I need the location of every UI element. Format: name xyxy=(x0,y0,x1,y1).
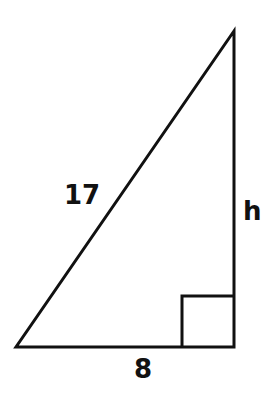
right-triangle-figure xyxy=(0,0,272,410)
hypotenuse-label: 17 xyxy=(64,182,100,208)
base-label: 8 xyxy=(134,356,152,382)
triangle-outline xyxy=(16,31,234,347)
height-label: h xyxy=(243,198,262,224)
diagram-canvas: 17 h 8 xyxy=(0,0,272,410)
right-angle-marker xyxy=(182,296,234,347)
